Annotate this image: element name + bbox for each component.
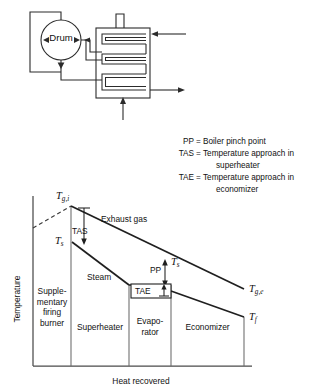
tas-arrowhead-bottom bbox=[81, 239, 87, 246]
legend-eq-pp: = bbox=[194, 136, 203, 147]
zone-label-superheater-line1: Superheater bbox=[71, 322, 129, 333]
legend-eq-tas: = bbox=[194, 148, 203, 171]
pp-label: PP bbox=[150, 265, 161, 275]
legend-value-tae-line2: economizer bbox=[203, 184, 318, 195]
figure-root: Drum PP = Boiler pinch point TAS = Tempe… bbox=[0, 0, 319, 392]
legend-value-tas-line1: Temperature approach in bbox=[203, 149, 294, 158]
zone-label-economizer-line1: Economizer bbox=[171, 322, 244, 333]
legend-value-tae-line1: Temperature approach in bbox=[203, 173, 294, 182]
legend-item-tae: TAE = Temperature approach in economizer bbox=[168, 172, 318, 195]
legend: PP = Boiler pinch point TAS = Temperatur… bbox=[168, 136, 318, 196]
economizer-tube-coil bbox=[102, 74, 146, 90]
feedwater-curve bbox=[171, 291, 244, 317]
steam-label: Steam bbox=[87, 272, 111, 282]
legend-key-pp: PP bbox=[168, 136, 194, 147]
zone-label-evaporator-line2: rator bbox=[129, 327, 171, 338]
hrsg-vessel-outline bbox=[96, 28, 150, 98]
legend-value-pp: Boiler pinch point bbox=[203, 136, 318, 147]
zone-label-burner-line3: firing bbox=[33, 307, 71, 318]
legend-value-tas: Temperature approach in superheater bbox=[203, 148, 318, 171]
tas-measure-arrow bbox=[78, 208, 90, 242]
legend-eq-tae: = bbox=[194, 172, 203, 195]
steam-temperature-left-label: Ts bbox=[55, 235, 64, 248]
legend-value-tae: Temperature approach in economizer bbox=[203, 172, 318, 195]
legend-value-tas-line2: superheater bbox=[203, 160, 318, 171]
legend-key-tae: TAE bbox=[168, 172, 194, 195]
gas-inlet-temperature-label: Tg,i bbox=[56, 190, 69, 203]
zone-label-economizer: Economizer bbox=[171, 322, 244, 333]
legend-key-tas: TAS bbox=[168, 148, 194, 171]
steam-temperature-right-label: Ts bbox=[171, 256, 180, 269]
evaporator-riser-line bbox=[86, 40, 102, 60]
legend-item-tas: TAS = Temperature approach in superheate… bbox=[168, 148, 318, 171]
zone-label-burner-line2: mentary bbox=[33, 297, 71, 308]
zone-label-burner-line1: Supple- bbox=[33, 286, 71, 297]
gas-inlet-arrowhead bbox=[151, 31, 158, 37]
superheater-tube-coil bbox=[102, 34, 146, 44]
drum-label: Drum bbox=[40, 32, 82, 43]
riser-arrowhead bbox=[84, 37, 90, 42]
tae-label: TAE bbox=[135, 286, 151, 296]
y-axis-title: Temperature bbox=[12, 255, 22, 343]
zone-label-evaporator: Evapo- rator bbox=[129, 316, 171, 337]
zone-label-evaporator-line1: Evapo- bbox=[129, 316, 171, 327]
downcomer-arrowhead bbox=[58, 63, 65, 70]
gas-outlet-arrowhead bbox=[178, 87, 185, 93]
evaporator-tube-coil bbox=[102, 54, 146, 64]
zone-label-burner: Supple- mentary firing burner bbox=[33, 286, 71, 328]
stack-nozzle-icon bbox=[116, 14, 124, 28]
feedwater-temperature-label: Tf bbox=[249, 311, 257, 324]
zone-label-burner-line4: burner bbox=[33, 318, 71, 329]
legend-item-pp: PP = Boiler pinch point bbox=[168, 136, 318, 147]
exhaust-gas-label: Exhaust gas bbox=[101, 214, 147, 224]
gas-exit-temperature-label: Tg,e bbox=[249, 283, 263, 296]
zone-label-superheater: Superheater bbox=[71, 322, 129, 333]
pp-arrowhead-top bbox=[162, 259, 168, 266]
x-axis-title: Heat recovered bbox=[86, 376, 196, 386]
drum-to-superheater-line bbox=[81, 40, 102, 52]
tas-label: TAS bbox=[72, 226, 88, 236]
supplementary-firing-ramp bbox=[33, 206, 71, 228]
